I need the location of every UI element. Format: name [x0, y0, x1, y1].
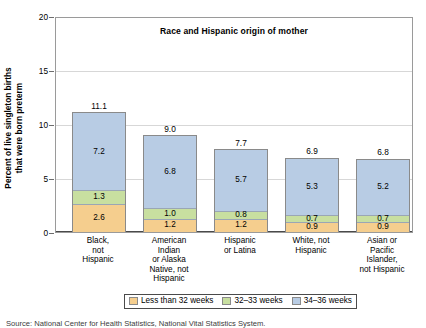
y-axis-title-line-1: Percent of live singleton births: [3, 67, 14, 188]
y-tick-mark-15: [49, 71, 54, 72]
bar-segment-value: 2.6: [93, 214, 104, 222]
bar-segment-value: 0.8: [235, 211, 246, 219]
bar-group-asian-pacific-islander[interactable]: 6.8 5.2 0.7 0.9: [356, 159, 410, 232]
bar-segment-value: 1.2: [164, 221, 175, 229]
y-tick-label-15: 15: [26, 67, 48, 75]
y-tick-mark-10: [49, 125, 54, 126]
chart-figure: Percent of live singleton births that we…: [0, 0, 426, 328]
bar-segment-value: 0.9: [377, 223, 388, 231]
legend-swatch-icon: [222, 297, 231, 305]
y-tick-label-20: 20: [26, 13, 48, 21]
y-axis-title-line-2: that were born preterm: [13, 67, 24, 188]
bar-segment-32-33-weeks[interactable]: 1.0: [144, 208, 196, 219]
legend-item-less-than-32-weeks[interactable]: Less than 32 weeks: [129, 297, 213, 305]
bar-segment-value: 5.3: [306, 183, 317, 191]
x-tick-label-line: Hispanic: [127, 274, 211, 284]
segment-divider: [73, 204, 125, 205]
y-axis-tick-labels: 20 15 10 5 0: [24, 0, 48, 328]
bar-segment-34-36-weeks[interactable]: 6.8: [144, 136, 196, 209]
legend-swatch-icon: [292, 297, 301, 305]
x-tick-label-line: not Hispanic: [340, 265, 424, 275]
y-tick-mark-20: [49, 17, 54, 18]
source-note: Source: National Center for Health Stati…: [6, 319, 265, 328]
bar-stack[interactable]: 7.2 1.3 2.6: [72, 112, 126, 232]
y-tick-label-10: 10: [26, 121, 48, 129]
bar-segment-34-36-weeks[interactable]: 7.2: [73, 113, 125, 190]
bar-segment-less-than-32-weeks[interactable]: 2.6: [73, 204, 125, 232]
segment-divider: [73, 190, 125, 191]
bar-total-label: 6.9: [285, 147, 339, 155]
bar-segment-value: 5.7: [235, 176, 246, 184]
bar-segment-value: 1.3: [93, 193, 104, 201]
bar-total-label: 9.0: [143, 125, 197, 133]
bar-segment-32-33-weeks[interactable]: 1.3: [73, 190, 125, 204]
bar-segment-value: 7.2: [93, 148, 104, 156]
bar-segment-34-36-weeks[interactable]: 5.2: [357, 160, 409, 215]
legend-item-34-36-weeks[interactable]: 34–36 weeks: [292, 297, 352, 305]
y-axis-title: Percent of live singleton births that we…: [0, 18, 26, 238]
bar-total-label: 11.1: [72, 102, 126, 110]
bar-total-label: 6.8: [356, 148, 410, 156]
bar-segment-34-36-weeks[interactable]: 5.3: [286, 159, 338, 215]
bar-segment-less-than-32-weeks[interactable]: 1.2: [144, 219, 196, 232]
bar-segment-32-33-weeks[interactable]: 0.8: [215, 211, 267, 219]
legend-item-32-33-weeks[interactable]: 32–33 weeks: [222, 297, 282, 305]
bar-segment-less-than-32-weeks[interactable]: 0.9: [357, 222, 409, 232]
bar-group-american-indian-alaska-native[interactable]: 9.0 6.8 1.0 1.2: [143, 135, 197, 232]
bar-segment-value: 0.9: [306, 223, 317, 231]
legend-label: 34–36 weeks: [304, 297, 352, 305]
x-tick-label-line: Asian or: [340, 236, 424, 246]
x-tick-label-line: Native, not: [127, 265, 211, 275]
bar-series-container: 11.1 7.2 1.3 2.6 9.0: [56, 18, 412, 232]
bar-segment-less-than-32-weeks[interactable]: 0.9: [286, 222, 338, 232]
bar-group-hispanic-or-latina[interactable]: 7.7 5.7 0.8 1.2: [214, 149, 268, 232]
bar-group-white-not-hispanic[interactable]: 6.9 5.3 0.7 0.9: [285, 158, 339, 233]
bar-group-black-not-hispanic[interactable]: 11.1 7.2 1.3 2.6: [72, 112, 126, 232]
bar-stack[interactable]: 5.3 0.7 0.9: [285, 158, 339, 233]
bar-total-label: 7.7: [214, 139, 268, 147]
x-tick-label-line: Pacific: [340, 246, 424, 256]
x-tick-label-line: or Alaska: [127, 255, 211, 265]
bar-segment-value: 5.2: [377, 183, 388, 191]
y-tick-mark-5: [49, 179, 54, 180]
bar-segment-34-36-weeks[interactable]: 5.7: [215, 150, 267, 211]
bar-stack[interactable]: 6.8 1.0 1.2: [143, 135, 197, 232]
legend-label: Less than 32 weeks: [141, 297, 213, 305]
y-tick-mark-0: [49, 233, 54, 234]
bar-segment-value: 1.2: [235, 221, 246, 229]
legend-label: 32–33 weeks: [234, 297, 282, 305]
x-axis-tick-labels: Black, not Hispanic American Indian or A…: [55, 236, 413, 288]
legend-swatch-icon: [129, 297, 138, 305]
plot-area: Race and Hispanic origin of mother 11.1 …: [55, 17, 413, 233]
bar-stack[interactable]: 5.2 0.7 0.9: [356, 159, 410, 232]
chart-legend: Less than 32 weeks 32–33 weeks 34–36 wee…: [124, 294, 357, 309]
y-tick-label-5: 5: [26, 175, 48, 183]
x-tick-label-asian-pacific-islander: Asian or Pacific Islander, not Hispanic: [340, 236, 424, 274]
bar-segment-value: 6.8: [164, 168, 175, 176]
bar-segment-value: 1.0: [164, 210, 175, 218]
y-tick-label-0: 0: [26, 229, 48, 237]
bar-stack[interactable]: 5.7 0.8 1.2: [214, 149, 268, 232]
x-tick-label-line: Islander,: [340, 255, 424, 265]
bar-segment-less-than-32-weeks[interactable]: 1.2: [215, 219, 267, 232]
